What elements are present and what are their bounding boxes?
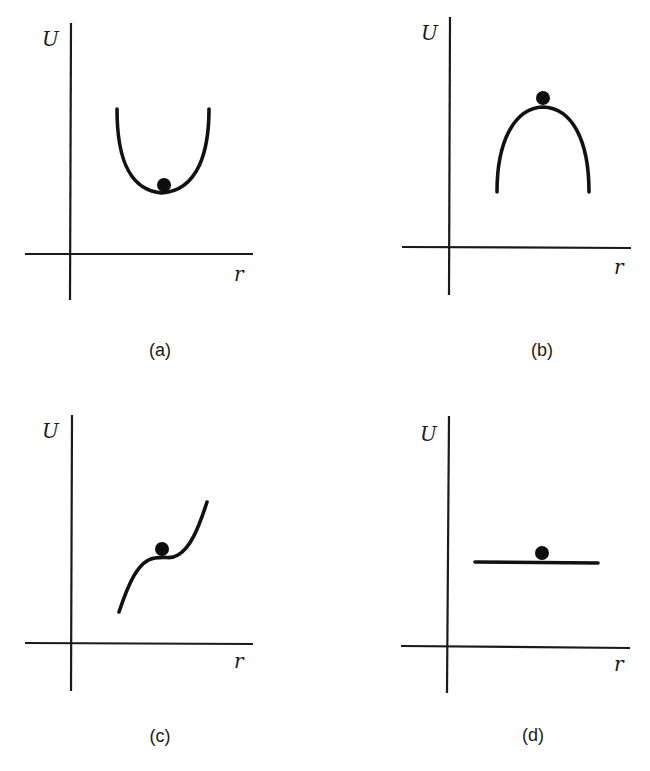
potential-energy-figure: U r (a) U r (b) U r (c) U r (d) bbox=[0, 0, 650, 771]
y-axis-label: U bbox=[42, 27, 60, 51]
y-axis bbox=[70, 23, 71, 300]
panel-label: (b) bbox=[531, 340, 553, 360]
ball bbox=[535, 546, 549, 560]
x-axis bbox=[401, 646, 630, 648]
y-axis bbox=[447, 416, 449, 693]
panel-label: (c) bbox=[150, 726, 171, 746]
x-axis-label: r bbox=[234, 262, 245, 286]
inflection-curve bbox=[119, 502, 207, 612]
y-axis bbox=[71, 415, 72, 691]
panel-a: U r (a) bbox=[25, 23, 253, 360]
x-axis bbox=[402, 247, 631, 248]
x-axis-label: r bbox=[234, 649, 245, 673]
x-axis-label: r bbox=[614, 652, 625, 676]
panel-label: (a) bbox=[149, 340, 171, 360]
x-axis bbox=[25, 643, 253, 644]
ball bbox=[157, 178, 171, 192]
y-axis-label: U bbox=[421, 21, 439, 45]
x-axis-label: r bbox=[614, 255, 625, 279]
ball bbox=[536, 91, 550, 105]
y-axis-label: U bbox=[420, 422, 438, 446]
panel-label: (d) bbox=[522, 725, 544, 745]
panel-d: U r (d) bbox=[401, 416, 630, 745]
panel-c: U r (c) bbox=[25, 415, 253, 746]
potential-hill-curve bbox=[497, 107, 589, 192]
y-axis bbox=[449, 17, 450, 295]
panel-b: U r (b) bbox=[402, 17, 631, 360]
y-axis-label: U bbox=[42, 419, 60, 443]
constant-potential-line bbox=[475, 562, 598, 563]
ball bbox=[155, 542, 169, 556]
